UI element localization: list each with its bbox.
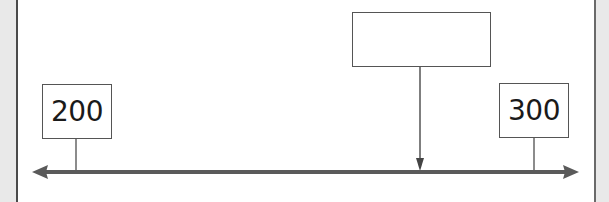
label-box-300: 300 bbox=[499, 83, 569, 138]
label-box-200: 200 bbox=[42, 84, 112, 139]
label-300-text: 300 bbox=[508, 94, 560, 127]
label-200-text: 200 bbox=[51, 95, 103, 128]
left-arrowhead-icon bbox=[32, 165, 48, 179]
right-arrowhead-icon bbox=[563, 165, 579, 179]
pointer-arrowhead-icon bbox=[416, 158, 424, 171]
unknown-value-box[interactable] bbox=[352, 12, 491, 67]
